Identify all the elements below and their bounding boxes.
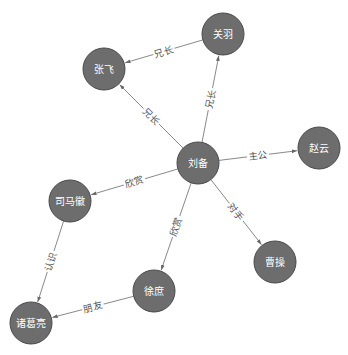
edge-guanyu-zhangfei: 兄长	[125, 40, 203, 63]
node-label: 刘备	[188, 157, 208, 169]
node-xushu[interactable]: 徐庶	[133, 270, 175, 312]
node-zhangfei[interactable]: 张飞	[83, 48, 125, 90]
edge-label-group: 兄长	[202, 87, 218, 111]
edge-label-group: 欣赏	[122, 173, 147, 191]
node-label: 张飞	[94, 64, 114, 75]
edge-liubei-zhangfei: 兄长	[120, 85, 184, 149]
node-zhaoyun[interactable]: 赵云	[298, 127, 340, 169]
edge-label: 兄长	[153, 43, 175, 59]
node-label: 司马徽	[55, 195, 85, 207]
node-zhugeliang[interactable]: 诸葛亮	[10, 302, 52, 344]
edge-label-group: 认识	[42, 249, 60, 274]
edge-label-group: 朋友	[81, 298, 105, 315]
node-label: 赵云	[309, 142, 329, 154]
relationship-graph: 兄长兄长兄长主公欣赏欣赏对手认识朋友 刘备张飞关羽赵云司马徽曹操徐庶诸葛亮	[0, 0, 348, 355]
edge-liubei-zhaoyun: 主公	[219, 148, 297, 163]
edge-label: 朋友	[82, 299, 104, 315]
edge-xushu-zhugeliang: 朋友	[52, 296, 133, 317]
node-label: 关羽	[213, 28, 233, 40]
edge-liubei-simahui: 欣赏	[91, 169, 178, 195]
node-label: 曹操	[265, 256, 285, 268]
edge-liubei-guanyu: 兄长	[202, 56, 219, 143]
node-guanyu[interactable]: 关羽	[202, 13, 244, 55]
edge-simahui-zhugeliang: 认识	[38, 221, 64, 302]
edge-label: 兄长	[203, 88, 218, 110]
edge-label-group: 欣赏	[167, 214, 186, 239]
edge-liubei-xushu: 欣赏	[161, 183, 191, 270]
edge-label: 欣赏	[123, 174, 145, 190]
edge-liubei-caocao: 对手	[211, 180, 262, 245]
node-label: 诸葛亮	[16, 317, 46, 329]
edge-label-group: 兄长	[152, 42, 176, 60]
edge-label-group: 对手	[225, 200, 248, 225]
node-simahui[interactable]: 司马徽	[49, 180, 91, 222]
node-caocao[interactable]: 曹操	[254, 241, 296, 283]
node-liubei[interactable]: 刘备	[177, 142, 219, 184]
node-label: 徐庶	[144, 285, 164, 297]
nodes-layer: 刘备张飞关羽赵云司马徽曹操徐庶诸葛亮	[10, 13, 340, 344]
edge-label-group: 主公	[246, 148, 269, 163]
